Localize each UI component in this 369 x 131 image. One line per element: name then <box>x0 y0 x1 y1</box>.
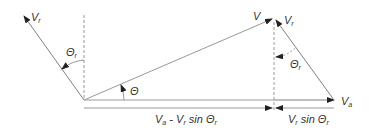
theta-r-arc-left <box>62 60 84 69</box>
label-v: V <box>253 11 260 22</box>
label-theta-r-left: Θr <box>66 47 77 59</box>
label-va: Va <box>341 96 352 108</box>
label-vr-right: Vr <box>284 15 294 27</box>
theta-r-arc-right <box>276 48 295 57</box>
label-vr-sin-theta-r: Vr sin Θr <box>288 114 329 126</box>
vr-vector-right <box>276 20 334 100</box>
v-vector <box>84 19 272 100</box>
label-va-minus-vr-sin-theta-r: Va - Vr sin Θr <box>155 114 217 126</box>
label-vr-left: Vr <box>31 12 41 24</box>
label-theta: Θ <box>130 86 139 97</box>
theta-arc <box>121 85 124 100</box>
velocity-diagram <box>0 0 369 131</box>
label-theta-r-right: Θr <box>290 59 301 71</box>
